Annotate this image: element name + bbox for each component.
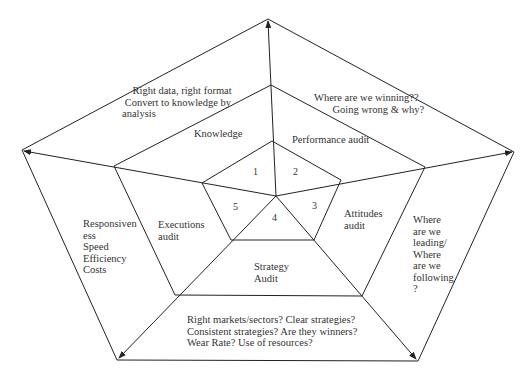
label-executions-questions: Responsiven ess Speed Efficiency Costs (83, 218, 137, 276)
label-performance-audit: Performance audit (292, 134, 369, 146)
inner-pentagon (202, 141, 341, 240)
label-attitudes-audit: Attitudes audit (344, 208, 383, 231)
segment-1: 1 (253, 166, 258, 177)
arrow-left (24, 151, 276, 196)
arrow-top (268, 21, 276, 196)
segment-3: 3 (312, 200, 317, 211)
outer-pentagon (22, 19, 514, 361)
label-attitudes-questions: Where are we leading/ Where are we follo… (413, 214, 454, 295)
segment-5: 5 (233, 201, 238, 212)
label-strategy-questions: Right markets/sectors? Clear strategies?… (187, 314, 357, 349)
label-executions-audit: Executions audit (158, 219, 205, 242)
segment-2: 2 (293, 166, 298, 177)
label-performance-questions: Where are we winning?? Going wrong & why… (314, 92, 424, 115)
arrow-right (276, 152, 512, 196)
label-knowledge: Knowledge (194, 128, 242, 140)
label-strategy-audit: Strategy Audit (254, 261, 289, 284)
segment-4: 4 (272, 212, 277, 223)
label-knowledge-questions: Right data, right format Convert to know… (122, 85, 232, 120)
